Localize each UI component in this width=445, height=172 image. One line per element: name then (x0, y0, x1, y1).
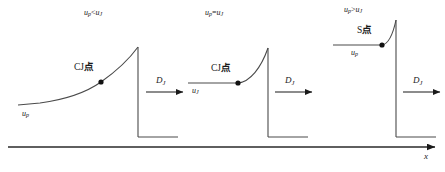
x-axis-label: x (424, 152, 428, 161)
detonation-velocity-label-3: DJ (413, 76, 422, 86)
inlet-velocity-label-3: up (351, 49, 358, 57)
condition-label-1: up<uJ (84, 9, 102, 17)
detonation-velocity-label-1: DJ (156, 76, 165, 86)
s-point-label: S点 (357, 26, 372, 36)
cj-point-label-1: CJ点 (74, 63, 94, 73)
cj-point-marker-1 (98, 79, 103, 84)
condition-label-2: up=uJ (205, 9, 223, 17)
condition-label-3: up>uJ (344, 6, 362, 14)
figure-canvas (0, 0, 445, 172)
s-point-marker (379, 42, 384, 47)
detonation-velocity-label-2: DJ (285, 76, 294, 86)
detonation-profiles-figure: up<uJ CJ点 up DJ up=uJ CJ点 uJ DJ up>uJ S点… (0, 0, 445, 172)
cj-point-label-2: CJ点 (211, 64, 231, 74)
inlet-velocity-label-2: uJ (192, 87, 199, 95)
inlet-velocity-label-1: up (22, 110, 29, 118)
cj-point-marker-2 (235, 80, 240, 85)
